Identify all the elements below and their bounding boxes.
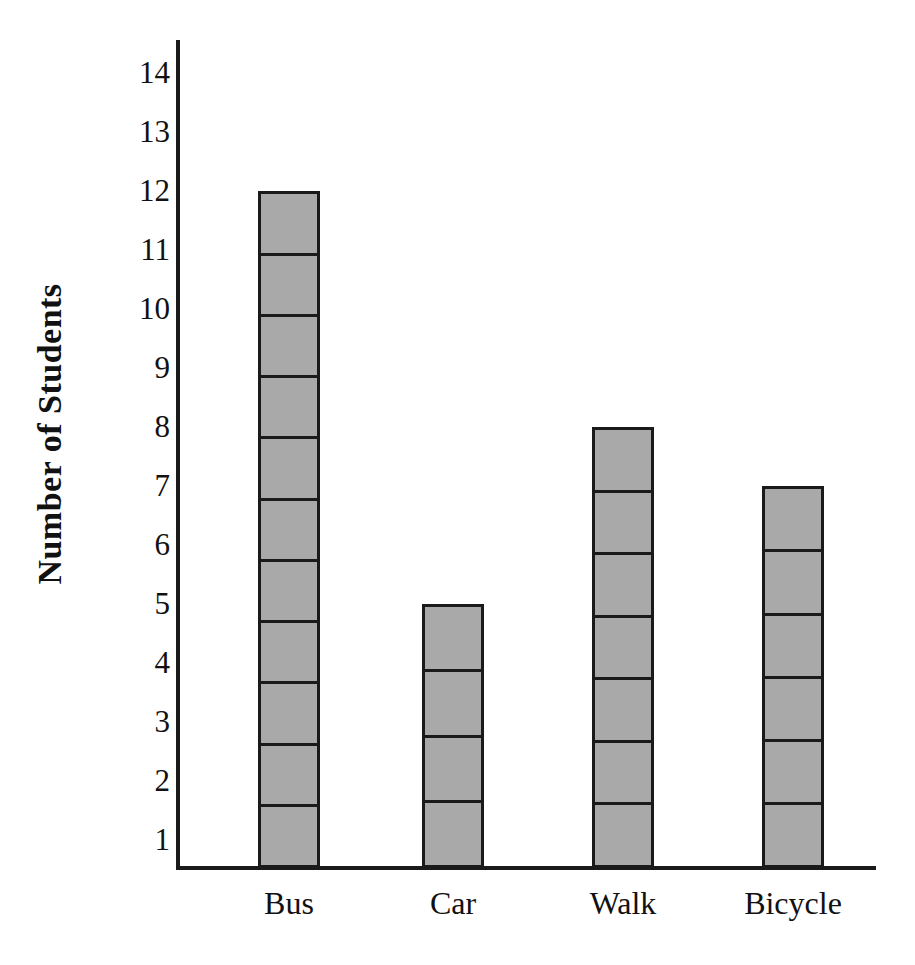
bar-segment: [595, 555, 651, 618]
bar-segment: [765, 679, 821, 742]
bar-bicycle[interactable]: [762, 486, 824, 868]
bar-segment: [595, 805, 651, 865]
bar-walk[interactable]: [592, 427, 654, 868]
bars-layer: [0, 0, 915, 965]
bar-segment: [261, 623, 317, 684]
bar-segment: [261, 746, 317, 807]
bar-segment: [261, 684, 317, 745]
bar-segment: [765, 616, 821, 679]
x-tick-label-bicycle: Bicycle: [693, 884, 893, 922]
bar-segment: [595, 743, 651, 806]
bar-segment: [765, 742, 821, 805]
bar-segment: [261, 501, 317, 562]
bar-segment: [425, 607, 481, 672]
bar-segment: [261, 317, 317, 378]
bar-segment: [261, 256, 317, 317]
bar-segment: [595, 680, 651, 743]
bar-segment: [425, 672, 481, 737]
bar-segment: [595, 618, 651, 681]
bar-segment: [261, 439, 317, 500]
bar-car[interactable]: [422, 604, 484, 868]
bar-segment: [261, 378, 317, 439]
bar-segment: [425, 803, 481, 865]
bar-segment: [765, 805, 821, 865]
bar-segment: [261, 807, 317, 865]
bar-bus[interactable]: [258, 191, 320, 868]
bar-segment: [425, 738, 481, 803]
bar-segment: [765, 489, 821, 552]
bar-segment: [261, 194, 317, 255]
bar-segment: [595, 430, 651, 493]
bar-segment: [261, 562, 317, 623]
bar-segment: [765, 552, 821, 615]
bar-segment: [595, 493, 651, 556]
bar-chart: Number of Students 14 13 12 11 10 9 8 7 …: [0, 0, 915, 965]
